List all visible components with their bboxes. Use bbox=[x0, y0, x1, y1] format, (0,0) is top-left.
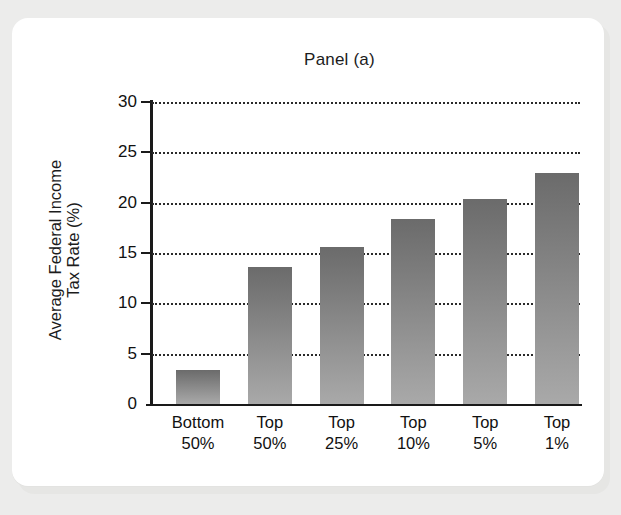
x-axis-tick-label-line-2: 1% bbox=[514, 433, 600, 454]
bar bbox=[320, 247, 364, 404]
y-axis-tick-label: 10 bbox=[118, 293, 137, 313]
bar-chart-figure: Panel (a) Average Federal Income Tax Rat… bbox=[0, 0, 621, 515]
y-axis-label-line-2: Tax Rate (%) bbox=[64, 160, 82, 340]
bar bbox=[391, 219, 435, 404]
x-axis-tick-label-line-1: Top bbox=[544, 413, 571, 431]
x-axis-tick-labels: Bottom50%Top50%Top25%Top10%Top5%Top1% bbox=[150, 412, 580, 482]
plot-area: 051015202530 bbox=[150, 102, 580, 404]
y-axis-label-line-1: Average Federal Income bbox=[46, 160, 64, 340]
x-axis-tick-label-line-1: Top bbox=[472, 413, 499, 431]
x-axis-tick-label-line-1: Bottom bbox=[172, 413, 224, 431]
bar bbox=[463, 199, 507, 404]
bar bbox=[176, 370, 220, 404]
x-axis-tick-label-line-1: Top bbox=[400, 413, 427, 431]
y-axis-tick-label: 20 bbox=[118, 193, 137, 213]
chart-title: Panel (a) bbox=[0, 50, 621, 70]
scanned-figure-page: Panel (a) Average Federal Income Tax Rat… bbox=[0, 0, 621, 515]
bar bbox=[535, 173, 579, 404]
y-axis-tick-label: 5 bbox=[128, 344, 137, 364]
y-axis-tick-label: 30 bbox=[118, 92, 137, 112]
y-axis-tick-label: 15 bbox=[118, 243, 137, 263]
y-axis-tick-label: 0 bbox=[128, 394, 137, 414]
x-axis-tick-label-line-1: Top bbox=[328, 413, 355, 431]
bar-series bbox=[150, 102, 580, 404]
x-axis-tick-label: Top1% bbox=[514, 412, 600, 454]
bar bbox=[248, 267, 292, 404]
y-axis-tick-label: 25 bbox=[118, 142, 137, 162]
x-axis-tick-label-line-1: Top bbox=[256, 413, 283, 431]
y-axis-label: Average Federal Income Tax Rate (%) bbox=[42, 100, 86, 400]
